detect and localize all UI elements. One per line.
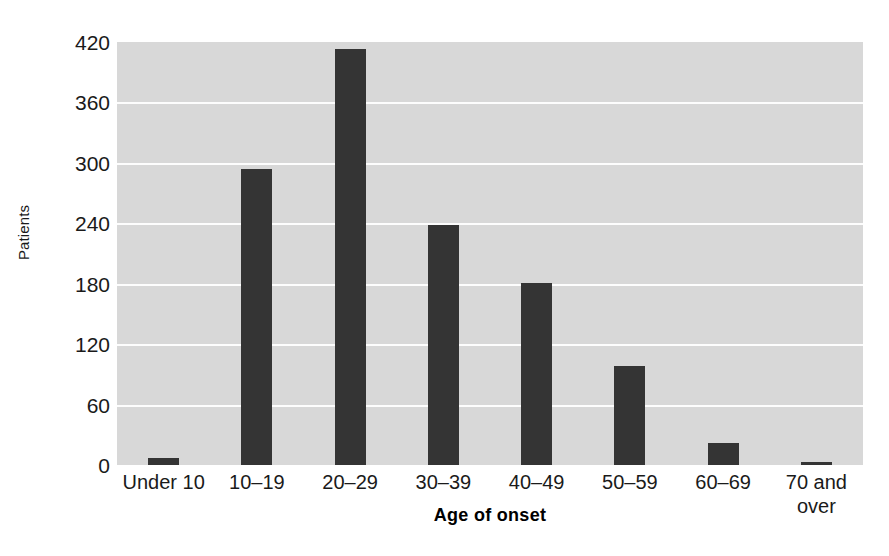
bar [521, 283, 552, 465]
x-axis-tick: 20–29 [304, 470, 397, 494]
x-axis-tick: Under 10 [117, 470, 210, 494]
y-axis-tick: 180 [44, 273, 110, 294]
x-axis-tick: 40–49 [490, 470, 583, 494]
bar [801, 462, 832, 465]
bar [614, 366, 645, 465]
x-axis-tick: 50–59 [583, 470, 676, 494]
y-axis-title: Patients [2, 0, 44, 465]
y-axis-tick: 420 [44, 32, 110, 53]
bar [241, 169, 272, 465]
y-axis-tick: 240 [44, 213, 110, 234]
bar-chart-figure: Patients 060120180240300360420 Under 101… [0, 0, 889, 556]
plot-area [117, 42, 863, 465]
y-axis-tick: 0 [44, 455, 110, 476]
bar [148, 458, 179, 465]
bars-layer [117, 42, 863, 465]
bar [428, 225, 459, 465]
x-axis-title: Age of onset [117, 505, 863, 526]
x-axis-tick: 10–19 [210, 470, 303, 494]
x-axis-tick: 60–69 [677, 470, 770, 494]
x-axis-tick: 30–39 [397, 470, 490, 494]
y-axis-tick: 300 [44, 152, 110, 173]
y-axis-tick: 60 [44, 394, 110, 415]
y-axis-title-label: Patients [15, 205, 32, 260]
bar [335, 49, 366, 465]
bar [708, 443, 739, 465]
y-axis-tick: 120 [44, 334, 110, 355]
y-axis-tick-labels: 060120180240300360420 [44, 0, 110, 556]
y-axis-tick: 360 [44, 92, 110, 113]
